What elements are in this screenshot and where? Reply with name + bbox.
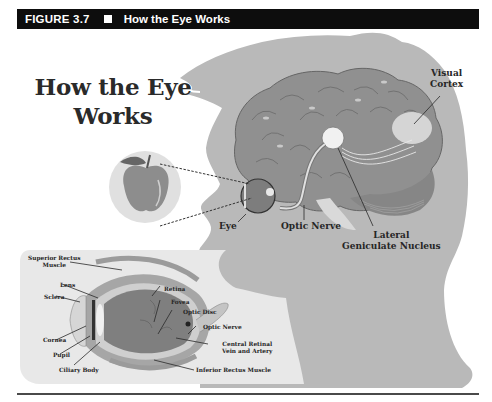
label-retina: Retina <box>164 286 185 293</box>
label-central-retinal-vein-artery: Central Retinal Vein and Artery <box>222 341 272 355</box>
label-inferior-rectus: Inferior Rectus Muscle <box>196 367 271 374</box>
bottom-rule <box>17 393 479 395</box>
label-lens: Lens <box>60 282 75 289</box>
label-cornea: Cornea <box>43 337 66 344</box>
title-line-2: Works <box>28 101 198 130</box>
diagram-title: How the Eye Works <box>28 72 198 130</box>
label-ciliary-body: Ciliary Body <box>59 367 99 374</box>
label-lateral-geniculate-nucleus: Lateral Geniculate Nucleus <box>342 230 441 252</box>
label-inset-optic-nerve: Optic Nerve <box>203 324 242 331</box>
label-fovea: Fovea <box>171 299 189 306</box>
label-sclera: Sclera <box>44 294 64 301</box>
label-optic-disc: Optic Disc <box>183 309 217 316</box>
label-eye: Eye <box>219 221 237 232</box>
label-superior-rectus: Superior Rectus Muscle <box>28 255 81 269</box>
title-line-1: How the Eye <box>28 72 198 101</box>
label-pupil: Pupil <box>53 352 70 359</box>
label-optic-nerve: Optic Nerve <box>281 221 341 232</box>
head-eye <box>241 179 275 213</box>
label-visual-cortex: Visual Cortex <box>430 68 463 90</box>
